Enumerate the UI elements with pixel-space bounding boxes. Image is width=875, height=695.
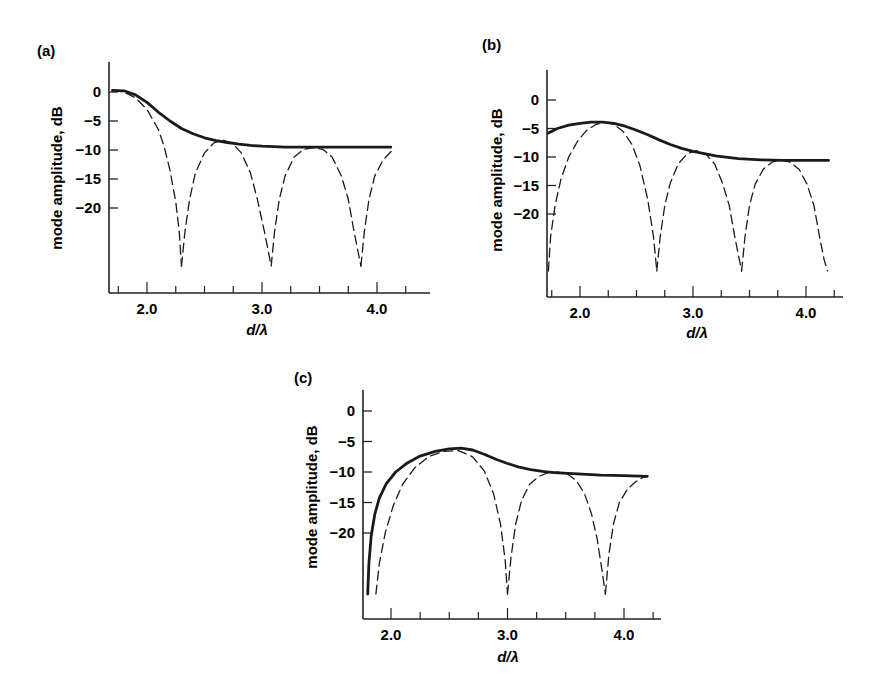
envelope-curve: [113, 90, 391, 147]
figure-canvas: (a) mode amplitude, dB d/λ 0−5−10−15−202…: [0, 0, 875, 695]
mode-lobe-curve: [657, 151, 742, 271]
curves-b: [548, 122, 828, 271]
panel-label-b: (b): [482, 36, 501, 53]
y-tick-label: 0: [93, 83, 101, 100]
axes-b: 0−5−10−15−202.03.04.0: [514, 70, 843, 321]
y-axis-title-a: mode amplitude, dB: [48, 106, 65, 250]
mode-lobe-curve: [271, 148, 361, 266]
axes-c: 0−5−10−15−202.03.04.0: [330, 390, 661, 643]
mode-lobe-curve: [508, 472, 606, 594]
x-tick-label: 3.0: [252, 300, 273, 317]
y-tick-label: −15: [514, 177, 539, 194]
x-tick-label: 3.0: [497, 626, 518, 643]
y-axis-title-c: mode amplitude, dB: [303, 425, 320, 569]
mode-lobe-curve: [361, 151, 394, 266]
envelope-curve: [368, 448, 648, 594]
mode-lobe-curve: [182, 140, 272, 266]
x-tick-label: 3.0: [683, 304, 704, 321]
y-tick-label: −15: [330, 494, 355, 511]
y-tick-label: −10: [514, 148, 539, 165]
panel-b: (b) mode amplitude, dB d/λ 0−5−10−15−202…: [482, 36, 843, 341]
y-tick-label: 0: [347, 402, 355, 419]
y-tick-label: −10: [76, 141, 101, 158]
y-tick-label: 0: [531, 91, 539, 108]
envelope-curve: [548, 122, 828, 160]
mode-lobe-curve: [113, 90, 182, 266]
curves-a: [113, 90, 395, 266]
axes-a: 0−5−10−15−202.03.04.0: [76, 62, 430, 317]
y-tick-label: −10: [330, 463, 355, 480]
y-axis-title-b: mode amplitude, dB: [488, 108, 505, 252]
y-tick-label: −5: [522, 120, 539, 137]
x-axis-title-c: d/λ: [497, 648, 519, 665]
x-tick-label: 4.0: [367, 300, 388, 317]
mode-lobe-curve: [742, 160, 828, 271]
y-tick-label: −15: [76, 170, 101, 187]
x-tick-label: 2.0: [381, 626, 402, 643]
y-tick-label: −20: [76, 199, 101, 216]
panel-a: (a) mode amplitude, dB d/λ 0−5−10−15−202…: [37, 42, 430, 338]
y-tick-label: −5: [84, 112, 101, 129]
x-tick-label: 4.0: [796, 304, 817, 321]
x-axis-title-b: d/λ: [686, 324, 708, 341]
panel-label-c: (c): [294, 369, 312, 386]
mode-lobe-curve: [605, 476, 647, 594]
x-tick-label: 2.0: [137, 300, 158, 317]
y-tick-label: −20: [330, 524, 355, 541]
panel-label-a: (a): [37, 42, 55, 59]
x-axis-title-a: d/λ: [246, 321, 268, 338]
curves-c: [368, 448, 648, 594]
panel-c: (c) mode amplitude, dB d/λ 0−5−10−15−202…: [294, 369, 661, 665]
mode-lobe-curve: [548, 122, 656, 271]
y-tick-label: −20: [514, 205, 539, 222]
y-tick-label: −5: [338, 433, 355, 450]
x-tick-label: 2.0: [570, 304, 591, 321]
x-tick-label: 4.0: [614, 626, 635, 643]
